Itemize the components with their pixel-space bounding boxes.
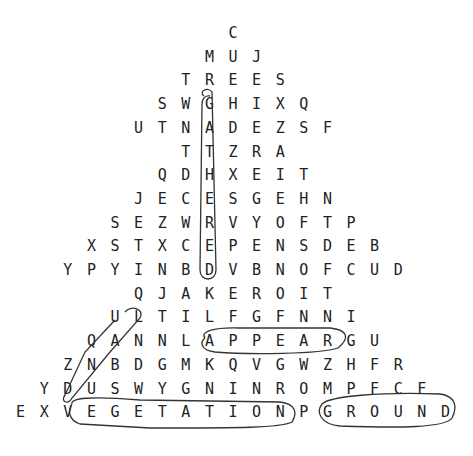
grid-letter[interactable]: Q bbox=[223, 354, 243, 376]
grid-letter[interactable]: T bbox=[152, 306, 172, 328]
grid-letter[interactable]: I bbox=[247, 93, 267, 115]
grid-letter[interactable]: Y bbox=[58, 259, 78, 281]
grid-letter[interactable]: A bbox=[105, 330, 125, 352]
grid-letter[interactable]: T bbox=[317, 283, 337, 305]
grid-letter[interactable]: N bbox=[270, 259, 290, 281]
grid-letter[interactable]: O bbox=[294, 259, 314, 281]
grid-letter[interactable]: A bbox=[294, 330, 314, 352]
grid-letter[interactable]: S bbox=[294, 117, 314, 139]
grid-letter[interactable]: R bbox=[317, 330, 337, 352]
grid-letter[interactable]: D bbox=[58, 378, 78, 400]
grid-letter[interactable]: N bbox=[270, 401, 290, 423]
grid-letter[interactable]: U bbox=[129, 117, 149, 139]
grid-letter[interactable]: R bbox=[247, 283, 267, 305]
grid-letter[interactable]: R bbox=[341, 401, 361, 423]
grid-letter[interactable]: W bbox=[294, 354, 314, 376]
grid-letter[interactable]: H bbox=[223, 93, 243, 115]
grid-letter[interactable]: Y bbox=[105, 259, 125, 281]
grid-letter[interactable]: D bbox=[199, 259, 219, 281]
grid-letter[interactable]: R bbox=[199, 69, 219, 91]
grid-letter[interactable]: S bbox=[105, 235, 125, 257]
grid-letter[interactable]: F bbox=[365, 378, 385, 400]
grid-letter[interactable]: P bbox=[341, 212, 361, 234]
grid-letter[interactable]: F bbox=[223, 306, 243, 328]
grid-letter[interactable]: Z bbox=[270, 117, 290, 139]
grid-letter[interactable]: C bbox=[176, 235, 196, 257]
grid-letter[interactable]: S bbox=[294, 235, 314, 257]
grid-letter[interactable]: E bbox=[247, 117, 267, 139]
grid-letter[interactable]: U bbox=[365, 330, 385, 352]
grid-letter[interactable]: S bbox=[105, 212, 125, 234]
grid-letter[interactable]: L bbox=[199, 306, 219, 328]
grid-letter[interactable]: O bbox=[247, 401, 267, 423]
grid-letter[interactable]: G bbox=[247, 188, 267, 210]
grid-letter[interactable]: Z bbox=[58, 354, 78, 376]
grid-letter[interactable]: P bbox=[341, 378, 361, 400]
grid-letter[interactable]: Z bbox=[152, 212, 172, 234]
grid-letter[interactable]: S bbox=[270, 69, 290, 91]
grid-letter[interactable]: X bbox=[81, 235, 101, 257]
grid-letter[interactable]: T bbox=[176, 69, 196, 91]
grid-letter[interactable]: N bbox=[129, 330, 149, 352]
grid-letter[interactable]: G bbox=[341, 330, 361, 352]
grid-letter[interactable]: D bbox=[435, 401, 455, 423]
grid-letter[interactable]: S bbox=[223, 188, 243, 210]
grid-letter[interactable]: N bbox=[176, 117, 196, 139]
grid-letter[interactable]: I bbox=[294, 283, 314, 305]
grid-letter[interactable]: T bbox=[152, 117, 172, 139]
grid-letter[interactable]: Q bbox=[294, 93, 314, 115]
grid-letter[interactable]: N bbox=[81, 354, 101, 376]
grid-letter[interactable]: B bbox=[176, 259, 196, 281]
grid-letter[interactable]: U bbox=[105, 306, 125, 328]
grid-letter[interactable]: O bbox=[270, 212, 290, 234]
grid-letter[interactable]: O bbox=[270, 283, 290, 305]
grid-letter[interactable]: E bbox=[199, 235, 219, 257]
grid-letter[interactable]: X bbox=[152, 235, 172, 257]
grid-letter[interactable]: N bbox=[317, 188, 337, 210]
grid-letter[interactable]: Z bbox=[317, 354, 337, 376]
grid-letter[interactable]: E bbox=[199, 188, 219, 210]
grid-letter[interactable]: N bbox=[317, 306, 337, 328]
grid-letter[interactable]: H bbox=[294, 188, 314, 210]
grid-letter[interactable]: V bbox=[223, 212, 243, 234]
grid-letter[interactable]: A bbox=[270, 141, 290, 163]
grid-letter[interactable]: E bbox=[341, 235, 361, 257]
grid-letter[interactable]: W bbox=[176, 93, 196, 115]
grid-letter[interactable]: X bbox=[223, 164, 243, 186]
grid-letter[interactable]: E bbox=[270, 330, 290, 352]
grid-letter[interactable]: E bbox=[223, 283, 243, 305]
grid-letter[interactable]: J bbox=[129, 188, 149, 210]
grid-letter[interactable]: R bbox=[247, 141, 267, 163]
grid-letter[interactable]: I bbox=[223, 401, 243, 423]
grid-letter[interactable]: P bbox=[81, 259, 101, 281]
grid-letter[interactable]: Y bbox=[247, 212, 267, 234]
grid-letter[interactable]: E bbox=[247, 235, 267, 257]
grid-letter[interactable]: C bbox=[388, 378, 408, 400]
grid-letter[interactable]: H bbox=[341, 354, 361, 376]
grid-letter[interactable]: P bbox=[294, 401, 314, 423]
grid-letter[interactable]: E bbox=[247, 69, 267, 91]
grid-letter[interactable]: U bbox=[388, 401, 408, 423]
grid-letter[interactable]: A bbox=[176, 283, 196, 305]
grid-letter[interactable]: P bbox=[223, 330, 243, 352]
grid-letter[interactable]: G bbox=[176, 378, 196, 400]
grid-letter[interactable]: F bbox=[317, 259, 337, 281]
grid-letter[interactable]: N bbox=[247, 378, 267, 400]
grid-letter[interactable]: D bbox=[317, 235, 337, 257]
grid-letter[interactable]: U bbox=[223, 46, 243, 68]
grid-letter[interactable]: R bbox=[199, 212, 219, 234]
grid-letter[interactable]: M bbox=[176, 354, 196, 376]
grid-letter[interactable]: T bbox=[199, 141, 219, 163]
grid-letter[interactable]: V bbox=[223, 259, 243, 281]
grid-letter[interactable]: A bbox=[199, 117, 219, 139]
grid-letter[interactable]: S bbox=[152, 93, 172, 115]
grid-letter[interactable]: T bbox=[152, 401, 172, 423]
grid-letter[interactable]: J bbox=[247, 46, 267, 68]
grid-letter[interactable]: U bbox=[365, 259, 385, 281]
grid-letter[interactable]: T bbox=[294, 164, 314, 186]
grid-letter[interactable]: W bbox=[129, 378, 149, 400]
grid-letter[interactable]: G bbox=[152, 354, 172, 376]
grid-letter[interactable]: N bbox=[270, 235, 290, 257]
grid-letter[interactable]: A bbox=[199, 330, 219, 352]
grid-letter[interactable]: U bbox=[81, 378, 101, 400]
